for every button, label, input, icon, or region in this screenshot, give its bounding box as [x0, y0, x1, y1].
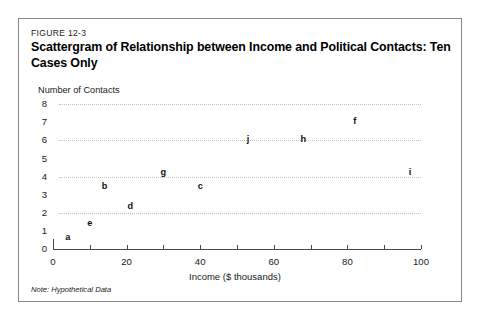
x-tick-label: 40: [189, 256, 211, 267]
x-tick-label: 60: [263, 256, 285, 267]
x-tick-mark: [200, 245, 201, 249]
y-tick-label: 7: [31, 116, 47, 127]
x-tick-mark: [384, 245, 385, 249]
x-tick-mark: [421, 245, 422, 249]
x-tick-label: 20: [116, 256, 138, 267]
data-point-e: e: [85, 219, 95, 228]
data-point-b: b: [100, 182, 110, 191]
x-tick-label: 100: [410, 256, 432, 267]
x-tick-mark: [163, 245, 164, 249]
plot-canvas: 012345678020406080100aebdgcjhfi: [19, 19, 462, 302]
x-tick-mark: [237, 245, 238, 249]
scatter-plot: Number of Contacts 012345678020406080100…: [19, 19, 462, 302]
x-tick-mark: [127, 245, 128, 249]
gridline: [59, 104, 421, 105]
data-point-i: i: [405, 168, 415, 177]
y-tick-label: 8: [31, 98, 47, 109]
x-tick-label: 80: [336, 256, 358, 267]
gridline: [59, 140, 421, 141]
gridline: [59, 213, 421, 214]
y-tick-label: 2: [31, 207, 47, 218]
x-tick-mark: [90, 245, 91, 249]
y-tick-label: 0: [31, 243, 47, 254]
data-point-g: g: [158, 168, 168, 177]
y-tick-label: 5: [31, 153, 47, 164]
x-tick-mark: [274, 245, 275, 249]
y-tick-label: 1: [31, 225, 47, 236]
x-tick-mark: [311, 245, 312, 249]
y-tick-label: 6: [31, 134, 47, 145]
data-point-c: c: [195, 182, 205, 191]
y-tick-label: 4: [31, 171, 47, 182]
data-point-d: d: [125, 202, 135, 211]
gridline: [59, 177, 421, 178]
figure-frame: FIGURE 12-3 Scattergram of Relationship …: [18, 18, 462, 302]
y-tick-label: 3: [31, 189, 47, 200]
x-tick-label: 0: [42, 256, 64, 267]
figure-note: Note: Hypothetical Data: [31, 285, 111, 294]
data-point-a: a: [63, 233, 73, 242]
x-axis-line: [53, 249, 421, 250]
data-point-j: j: [243, 135, 253, 144]
x-tick-mark: [53, 245, 54, 249]
data-point-h: h: [298, 135, 308, 144]
x-tick-mark: [347, 245, 348, 249]
data-point-f: f: [350, 117, 360, 126]
x-axis-title: Income ($ thousands): [189, 271, 281, 282]
